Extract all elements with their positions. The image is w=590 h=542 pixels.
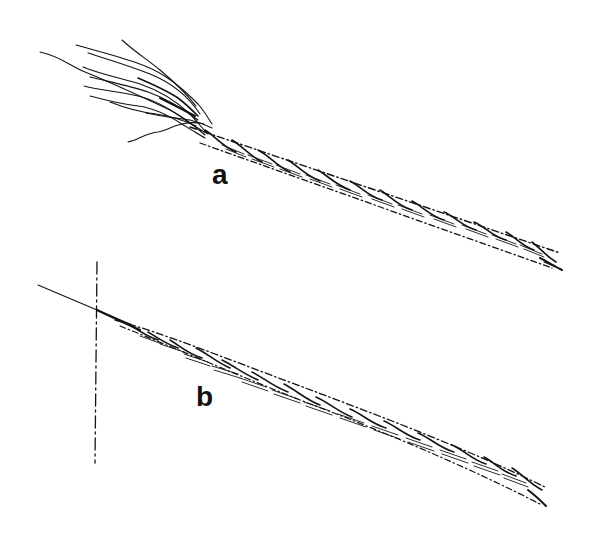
panel-a-label: a (212, 161, 228, 189)
panel-a-twisted-strand (190, 127, 562, 270)
panel-b-label: b (196, 383, 213, 411)
panel-b-twisted-strand (97, 310, 546, 506)
rope-illustration (0, 0, 590, 542)
panel-a-frayed-fibres (40, 40, 212, 142)
panel-b-reference-line (95, 262, 97, 463)
figure-canvas: a b (0, 0, 590, 542)
